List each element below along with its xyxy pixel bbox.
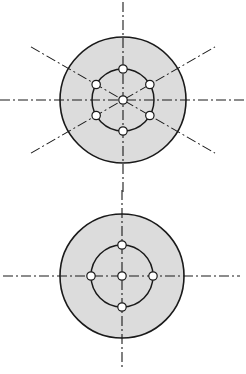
bolt-hole (119, 65, 127, 73)
four-hole-flange (3, 190, 240, 370)
six-hole-flange (0, 2, 246, 195)
bolt-hole (87, 272, 95, 280)
center-hole (119, 96, 127, 104)
flange-diagrams (0, 0, 246, 374)
center-hole (118, 272, 126, 280)
bolt-hole (119, 127, 127, 135)
bolt-hole (92, 80, 100, 88)
bolt-hole (146, 80, 154, 88)
bolt-hole (118, 303, 126, 311)
bolt-hole (146, 111, 154, 119)
bolt-hole (92, 111, 100, 119)
bolt-hole (149, 272, 157, 280)
bolt-hole (118, 241, 126, 249)
